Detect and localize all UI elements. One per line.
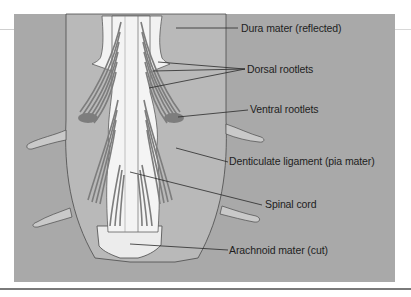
- label-spinal-cord: Spinal cord: [265, 198, 316, 210]
- bottom-divider: [0, 288, 411, 290]
- rootlet-bundle-right: [164, 113, 184, 123]
- label-dorsal-rootlets: Dorsal rootlets: [247, 63, 313, 75]
- label-dura-mater: Dura mater (reflected): [241, 22, 342, 34]
- nerve-root-right-upper: [226, 124, 264, 142]
- label-arachnoid-mater: Arachnoid mater (cut): [229, 244, 328, 256]
- nerve-root-left-lower: [33, 208, 72, 227]
- spinal-cord-illustration: [0, 0, 411, 297]
- label-ventral-rootlets: Ventral rootlets: [250, 103, 318, 115]
- nerve-root-left-upper: [27, 130, 66, 149]
- nerve-root-right-lower: [220, 206, 260, 222]
- rootlet-bundle-left: [78, 113, 98, 123]
- label-denticulate-ligament: Denticulate ligament (pia mater): [229, 155, 375, 167]
